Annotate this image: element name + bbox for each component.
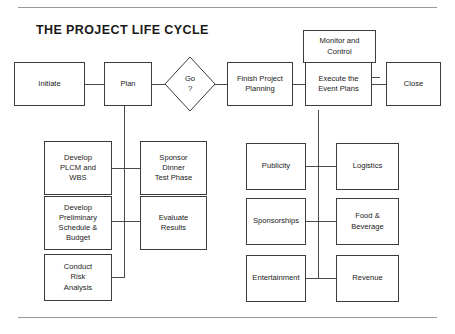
node-revenue-label: Revenue [352,273,382,283]
node-logistics-label: Logistics [353,161,383,171]
project-life-cycle-diagram: THE PROJECT LIFE CYCLE Initiate Plan Go … [0,0,455,334]
node-develop-preliminary-schedule-budget-label: Develop Preliminary Schedule & Budget [59,203,98,243]
node-evaluate-results-label: Evaluate Results [159,213,189,233]
node-initiate-label: Initiate [38,79,60,89]
node-develop-plcm-and-wbs-label: Develop PLCM and WBS [60,153,96,183]
connector-plan-branch-row3 [112,277,125,278]
node-plan[interactable]: Plan [104,62,152,106]
node-sponsor-dinner-test-phase-label: Sponsor Dinner Test Phase [155,153,193,183]
connector-plan-branch-row2 [112,221,140,222]
node-go-decision[interactable]: Go ? [164,56,216,112]
connector-execute-spine [318,110,319,279]
node-sponsorships-label: Sponsorships [253,216,299,226]
node-entertainment-label: Entertainment [252,273,299,283]
connector-initiate-to-plan [85,84,105,85]
node-conduct-risk-analysis-label: Conduct Risk Analysis [64,262,92,292]
node-finish-project-planning-label: Finish Project Planning [237,74,283,94]
node-execute-the-event-plans-label: Execute the Event Plans [318,74,359,94]
node-close[interactable]: Close [386,62,441,106]
node-monitor-and-control[interactable]: Monitor and Control [303,30,376,63]
node-logistics[interactable]: Logistics [336,143,399,190]
connector-execute-branch-row2 [306,221,336,222]
bottom-horizontal-rule [18,317,437,318]
connector-plan-branch-row1 [112,168,140,169]
top-horizontal-rule [18,7,437,8]
node-close-label: Close [404,79,423,89]
node-plan-label: Plan [120,79,135,89]
node-conduct-risk-analysis[interactable]: Conduct Risk Analysis [44,254,112,301]
node-sponsor-dinner-test-phase[interactable]: Sponsor Dinner Test Phase [140,141,207,195]
node-go-decision-label: Go ? [185,74,195,94]
connector-plan-spine [124,105,125,278]
node-evaluate-results[interactable]: Evaluate Results [140,196,207,250]
node-publicity-label: Publicity [262,161,290,171]
connector-execute-branch-row1 [306,166,336,167]
node-go-decision-line1: Go [185,74,195,84]
node-execute-the-event-plans[interactable]: Execute the Event Plans [305,62,372,106]
connector-execute-to-close [372,84,386,85]
node-go-decision-line2: ? [185,84,195,94]
connector-execute-branch-row3 [306,278,336,279]
node-publicity[interactable]: Publicity [246,143,306,190]
node-entertainment[interactable]: Entertainment [246,255,306,302]
node-develop-plcm-and-wbs[interactable]: Develop PLCM and WBS [44,141,112,195]
page-title: THE PROJECT LIFE CYCLE [36,23,209,37]
node-food-beverage[interactable]: Food & Beverage [336,198,399,245]
node-finish-project-planning[interactable]: Finish Project Planning [227,62,293,106]
connector-finish-planning-to-execute [293,84,305,85]
node-sponsorships[interactable]: Sponsorships [246,198,306,245]
node-revenue[interactable]: Revenue [336,255,399,302]
node-monitor-and-control-label: Monitor and Control [319,36,359,56]
node-food-beverage-label: Food & Beverage [351,211,384,231]
node-initiate[interactable]: Initiate [14,62,85,106]
node-develop-preliminary-schedule-budget[interactable]: Develop Preliminary Schedule & Budget [44,196,112,250]
